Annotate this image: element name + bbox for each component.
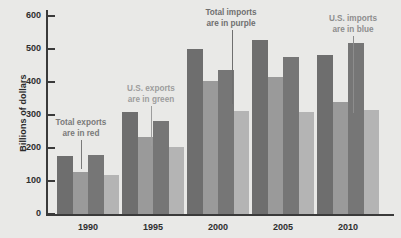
annotation-total-exports: Total exportsare in red xyxy=(38,118,124,139)
annotation-line-1: Total imports xyxy=(183,8,279,19)
annotation-line-2: are in green xyxy=(108,95,194,106)
annotation-line-2: are in blue xyxy=(312,25,394,36)
bar-group xyxy=(252,11,314,214)
plot-area: 0100200300400500600 19901995200020052010 xyxy=(46,10,394,216)
annotation-line-2: are in red xyxy=(38,129,124,140)
bar xyxy=(268,77,284,214)
bar xyxy=(153,121,169,214)
y-axis-tick xyxy=(48,147,55,149)
bar xyxy=(122,112,138,214)
y-axis-tick-label: 400 xyxy=(5,77,41,86)
bar xyxy=(57,156,73,214)
annotation-line-1: Total exports xyxy=(38,118,124,129)
annotation-line-1: U.S. exports xyxy=(108,84,194,95)
bar xyxy=(73,172,89,214)
y-axis-tick xyxy=(48,48,55,50)
bar-group xyxy=(122,11,184,214)
bar xyxy=(88,155,104,214)
annotation-leader-line-total-imports xyxy=(232,30,233,104)
annotation-us-imports: U.S. importsare in blue xyxy=(312,14,394,35)
bar-chart: Billions of dollars 0100200300400500600 … xyxy=(0,0,401,238)
bar xyxy=(333,102,349,214)
x-axis-label: 1995 xyxy=(118,222,188,232)
bar xyxy=(348,43,364,214)
bar xyxy=(187,49,203,214)
bar xyxy=(364,110,380,214)
x-axis-line xyxy=(46,214,394,216)
bar xyxy=(299,112,315,214)
y-axis-tick xyxy=(48,114,55,116)
y-axis-tick-label: 0 xyxy=(5,209,41,218)
bar-group xyxy=(57,11,119,214)
y-axis-tick xyxy=(48,213,55,215)
bar xyxy=(138,137,154,214)
bar xyxy=(252,40,268,214)
bar xyxy=(169,147,185,214)
bar-group xyxy=(317,11,379,214)
bar xyxy=(234,111,250,214)
y-axis-tick xyxy=(48,81,55,83)
annotation-line-2: are in purple xyxy=(183,19,279,30)
annotation-us-exports: U.S. exportsare in green xyxy=(108,84,194,105)
bar xyxy=(104,175,120,214)
bar xyxy=(317,55,333,214)
y-axis-tick-label: 200 xyxy=(5,143,41,152)
x-axis-label: 2010 xyxy=(313,222,383,232)
bar xyxy=(283,57,299,214)
y-axis-tick-label: 300 xyxy=(5,110,41,119)
y-axis-tick-label: 500 xyxy=(5,44,41,53)
y-axis-tick-label: 100 xyxy=(5,176,41,185)
annotation-line-1: U.S. imports xyxy=(312,14,394,25)
annotation-total-imports: Total importsare in purple xyxy=(183,8,279,29)
y-axis-tick-label: 600 xyxy=(5,11,41,20)
y-axis-line xyxy=(46,10,48,215)
x-axis-label: 1990 xyxy=(53,222,123,232)
y-axis-tick xyxy=(48,15,55,17)
bar-group xyxy=(187,11,249,214)
annotation-leader-line-us-imports xyxy=(353,36,354,113)
y-axis-tick xyxy=(48,180,55,182)
x-axis-label: 2000 xyxy=(183,222,253,232)
annotation-leader-line-us-exports xyxy=(151,106,152,146)
bar xyxy=(203,81,219,214)
annotation-leader-line-total-exports xyxy=(81,140,82,169)
x-axis-label: 2005 xyxy=(248,222,318,232)
